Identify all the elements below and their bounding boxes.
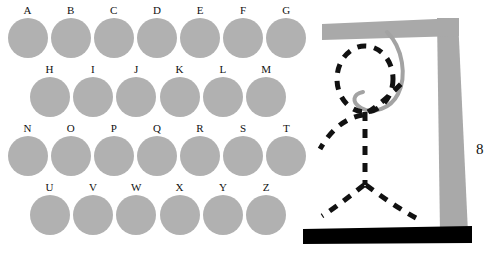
hangman-game-screen: A B C D E F G xyxy=(0,0,485,258)
letter-disc[interactable] xyxy=(137,18,177,58)
letter-label: Y xyxy=(219,181,227,193)
letter-row: A B C D E F G xyxy=(6,4,308,58)
letter-option-n[interactable]: N xyxy=(6,122,49,176)
letter-label: O xyxy=(67,122,75,134)
letter-option-f[interactable]: F xyxy=(222,4,265,58)
letter-disc[interactable] xyxy=(223,18,263,58)
letter-label: C xyxy=(110,4,118,16)
letter-option-l[interactable]: L xyxy=(201,63,244,117)
letter-option-z[interactable]: Z xyxy=(245,181,288,235)
letter-disc[interactable] xyxy=(203,77,243,117)
edge-clipped-glyph: 8 xyxy=(476,140,485,158)
letter-option-r[interactable]: R xyxy=(179,122,222,176)
letter-disc[interactable] xyxy=(160,77,200,117)
letter-disc[interactable] xyxy=(73,77,113,117)
letter-option-i[interactable]: I xyxy=(71,63,114,117)
letter-label: J xyxy=(134,63,138,75)
figure-left-leg-icon xyxy=(322,185,364,216)
figure-left-arm-icon xyxy=(320,115,363,149)
letter-disc[interactable] xyxy=(73,195,113,235)
letter-label: D xyxy=(153,4,161,16)
letter-disc[interactable] xyxy=(137,136,177,176)
letter-disc[interactable] xyxy=(51,136,91,176)
letter-option-h[interactable]: H xyxy=(28,63,71,117)
letter-label: I xyxy=(91,63,95,75)
letter-option-m[interactable]: M xyxy=(245,63,288,117)
letter-label: Q xyxy=(153,122,161,134)
letter-row: H I J K L M xyxy=(28,63,288,117)
letter-disc[interactable] xyxy=(246,195,286,235)
letter-disc[interactable] xyxy=(30,77,70,117)
letter-label: V xyxy=(89,181,97,193)
figure-right-leg-icon xyxy=(366,185,416,218)
letter-label: A xyxy=(23,4,31,16)
letter-label: B xyxy=(67,4,75,16)
letter-label: X xyxy=(176,181,184,193)
letter-label: Z xyxy=(263,181,270,193)
letter-label: R xyxy=(196,122,204,134)
letter-disc[interactable] xyxy=(30,195,70,235)
letter-label: P xyxy=(111,122,117,134)
alphabet-letter-board: A B C D E F G xyxy=(0,0,312,258)
letter-label: E xyxy=(197,4,204,16)
letter-option-w[interactable]: W xyxy=(115,181,158,235)
letter-option-v[interactable]: V xyxy=(71,181,114,235)
gallows-drawing xyxy=(295,0,485,258)
letter-option-d[interactable]: D xyxy=(135,4,178,58)
letter-disc[interactable] xyxy=(116,77,156,117)
letter-label: L xyxy=(220,63,227,75)
letter-option-y[interactable]: Y xyxy=(201,181,244,235)
letter-option-s[interactable]: S xyxy=(222,122,265,176)
letter-label: K xyxy=(176,63,184,75)
gallows-post-icon xyxy=(437,18,468,233)
letter-disc[interactable] xyxy=(203,195,243,235)
letter-label: M xyxy=(261,63,271,75)
letter-disc[interactable] xyxy=(223,136,263,176)
letter-label: U xyxy=(46,181,54,193)
letter-option-u[interactable]: U xyxy=(28,181,71,235)
letter-option-q[interactable]: Q xyxy=(135,122,178,176)
letter-option-e[interactable]: E xyxy=(179,4,222,58)
letter-label: H xyxy=(46,63,54,75)
letter-label: T xyxy=(283,122,290,134)
letter-disc[interactable] xyxy=(51,18,91,58)
letter-disc[interactable] xyxy=(94,136,134,176)
letter-option-x[interactable]: X xyxy=(158,181,201,235)
letter-label: G xyxy=(282,4,290,16)
letter-disc[interactable] xyxy=(8,136,48,176)
letter-label: F xyxy=(240,4,246,16)
letter-option-b[interactable]: B xyxy=(49,4,92,58)
letter-disc[interactable] xyxy=(180,136,220,176)
letter-disc[interactable] xyxy=(94,18,134,58)
letter-row: N O P Q R S T xyxy=(6,122,308,176)
letter-option-a[interactable]: A xyxy=(6,4,49,58)
letter-row: U V W X Y Z xyxy=(28,181,288,235)
letter-disc[interactable] xyxy=(160,195,200,235)
letter-disc[interactable] xyxy=(180,18,220,58)
letter-disc[interactable] xyxy=(116,195,156,235)
letter-option-j[interactable]: J xyxy=(115,63,158,117)
letter-label: S xyxy=(240,122,246,134)
letter-label: W xyxy=(131,181,142,193)
hangman-gallows xyxy=(295,0,485,258)
letter-label: N xyxy=(23,122,31,134)
letter-option-p[interactable]: P xyxy=(92,122,135,176)
letter-option-o[interactable]: O xyxy=(49,122,92,176)
letter-option-k[interactable]: K xyxy=(158,63,201,117)
letter-option-c[interactable]: C xyxy=(92,4,135,58)
letter-disc[interactable] xyxy=(8,18,48,58)
letter-disc[interactable] xyxy=(246,77,286,117)
gallows-base-icon xyxy=(303,226,472,244)
